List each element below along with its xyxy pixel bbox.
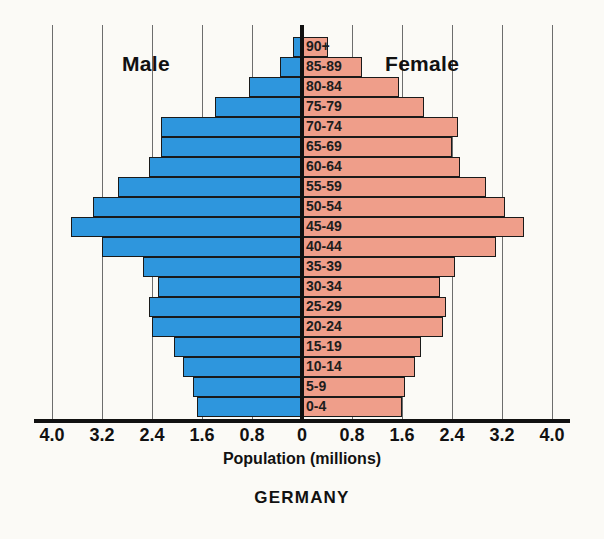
bar-female — [302, 37, 328, 57]
x-axis-tick: 1.6 — [189, 425, 214, 446]
bar-female — [302, 97, 424, 117]
bar-male — [102, 237, 304, 257]
x-axis-title: Population (millions) — [0, 450, 604, 468]
male-side-label: Male — [122, 52, 170, 76]
x-axis-tick: 0.8 — [339, 425, 364, 446]
x-axis-tick: 3.2 — [89, 425, 114, 446]
bar-male — [197, 397, 304, 417]
bar-female — [302, 137, 452, 157]
bar-female — [302, 57, 362, 77]
bar-female — [302, 377, 405, 397]
bar-male — [71, 217, 304, 237]
bar-male — [174, 337, 304, 357]
center-axis-line — [300, 25, 304, 419]
bar-male — [93, 197, 304, 217]
x-axis-tick: 4.0 — [539, 425, 564, 446]
x-axis-tick: 1.6 — [389, 425, 414, 446]
bar-female — [302, 337, 421, 357]
bar-female — [302, 397, 402, 417]
plot-area: 90+85-8980-8475-7970-7465-6960-6455-5950… — [0, 0, 604, 420]
x-axis-tick: 3.2 — [489, 425, 514, 446]
bar-female — [302, 217, 524, 237]
bar-male — [118, 177, 304, 197]
bar-female — [302, 357, 415, 377]
bar-male — [149, 297, 304, 317]
x-axis-tick-labels: 4.03.22.41.60.800.81.62.43.24.0 — [0, 425, 604, 451]
bar-female — [302, 317, 443, 337]
bar-male — [193, 377, 304, 397]
population-pyramid-chart: 90+85-8980-8475-7970-7465-6960-6455-5950… — [0, 0, 604, 539]
bar-male — [152, 317, 304, 337]
bar-male — [149, 157, 304, 177]
bar-female — [302, 77, 399, 97]
chart-title: GERMANY — [0, 488, 604, 508]
bar-female — [302, 177, 486, 197]
bar-female — [302, 277, 440, 297]
x-axis-tick: 2.4 — [439, 425, 464, 446]
female-side-label: Female — [385, 52, 459, 76]
bar-female — [302, 237, 496, 257]
bar-female — [302, 297, 446, 317]
bar-male — [158, 277, 304, 297]
x-axis-tick: 0.8 — [239, 425, 264, 446]
bar-male — [143, 257, 304, 277]
bar-female — [302, 157, 460, 177]
x-axis-tick: 2.4 — [139, 425, 164, 446]
bar-female — [302, 257, 455, 277]
x-axis-tick: 0 — [297, 425, 307, 446]
bar-female — [302, 117, 458, 137]
x-axis-tick: 4.0 — [39, 425, 64, 446]
x-axis-line — [34, 419, 570, 423]
bar-male — [183, 357, 304, 377]
bar-male — [161, 117, 304, 137]
bar-male — [249, 77, 304, 97]
bar-male — [161, 137, 304, 157]
bar-female — [302, 197, 505, 217]
bar-male — [215, 97, 305, 117]
